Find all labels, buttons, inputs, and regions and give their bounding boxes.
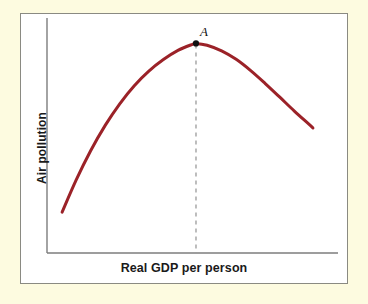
y-axis-title-text: Air pollution — [35, 112, 49, 184]
plot-area — [0, 0, 368, 304]
y-axis-title: Air pollution — [22, 96, 38, 186]
peak-point-marker — [193, 40, 199, 46]
figure-root: Air pollution Real GDP per person A — [0, 0, 368, 304]
peak-point-label: A — [200, 24, 208, 40]
x-axis-title: Real GDP per person — [0, 261, 368, 275]
pollution-curve — [62, 43, 313, 212]
